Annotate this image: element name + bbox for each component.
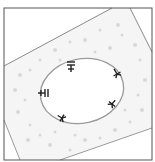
diagram-figure: [0, 0, 155, 162]
